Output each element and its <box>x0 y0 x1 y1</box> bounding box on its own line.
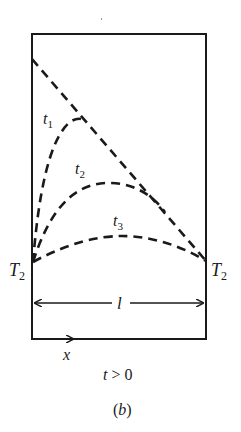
temperature-profile-diagram: t1 t2 t3 T2 T2 l x t > 0 (b) <box>0 0 241 432</box>
label-t1: t1 <box>43 110 53 130</box>
condition-label: t > 0 <box>103 366 132 383</box>
panel-label: (b) <box>113 401 132 419</box>
label-t3: t3 <box>113 212 123 232</box>
x-axis-label: x <box>62 346 70 363</box>
right-boundary-label: T2 <box>211 260 227 283</box>
curve-t2 <box>33 183 165 262</box>
length-label: l <box>117 294 122 313</box>
left-boundary-label: T2 <box>9 260 25 283</box>
speck <box>101 18 102 20</box>
label-t2: t2 <box>75 160 85 180</box>
curve-t3 <box>33 236 206 262</box>
